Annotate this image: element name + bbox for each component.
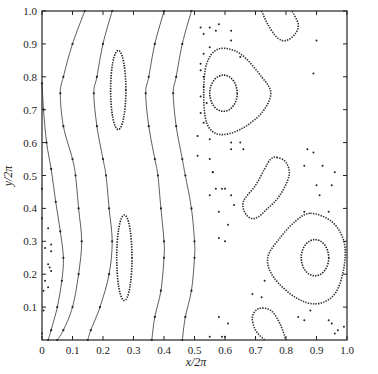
- scatter-point: [261, 296, 263, 298]
- scatter-point: [215, 188, 217, 190]
- trajectory-marker: [148, 125, 150, 127]
- scatter-point: [200, 69, 202, 71]
- y-tick-label: 0.6: [23, 137, 37, 149]
- y-tick-label: 0.3: [23, 235, 37, 247]
- scatter-point: [203, 53, 205, 55]
- trajectory-marker: [74, 174, 76, 176]
- x-tick-label: 0.7: [249, 344, 263, 356]
- trajectory-marker: [78, 273, 80, 275]
- trajectory-marker: [62, 125, 64, 127]
- scatter-point: [44, 280, 46, 282]
- scatter-point: [209, 336, 211, 338]
- scatter-point: [239, 142, 241, 144]
- x-axis-ticks: 00.10.20.30.40.50.60.70.80.91.0: [39, 11, 354, 356]
- scatter-point: [224, 188, 226, 190]
- trajectory-marker: [96, 125, 98, 127]
- scatter-point: [203, 86, 205, 88]
- trajectory-marker: [175, 76, 177, 78]
- trajectory-curves: [41, 10, 345, 341]
- scatter-point: [50, 250, 52, 252]
- scatter-point: [49, 267, 51, 269]
- trajectory-marker: [96, 76, 98, 78]
- trajectory-marker: [193, 257, 195, 259]
- arc-bottom-right: [252, 308, 286, 340]
- scatter-point: [47, 263, 49, 265]
- scatter-point: [334, 332, 336, 334]
- scatter-point: [197, 135, 199, 137]
- trajectory-marker: [50, 329, 52, 331]
- y-axis-label: y/2π: [1, 165, 15, 188]
- scatter-point: [309, 309, 311, 311]
- scatter-point: [230, 40, 232, 42]
- scatter-point: [312, 73, 314, 75]
- trajectory-marker: [62, 329, 64, 331]
- scatter-point: [200, 26, 202, 28]
- scatter-point: [331, 323, 333, 325]
- arc-top-right: [262, 11, 299, 41]
- y-tick-label: 0.8: [23, 71, 37, 83]
- trajectory-marker: [145, 92, 147, 94]
- trajectory-marker: [71, 306, 73, 308]
- trajectory-marker: [154, 316, 156, 318]
- scatter-point: [209, 158, 211, 160]
- trajectory-marker: [56, 306, 58, 308]
- y-tick-label: 0.1: [23, 301, 37, 313]
- trajectory-marker: [184, 316, 186, 318]
- trajectory-marker: [81, 240, 83, 242]
- y-tick-label: 0.5: [23, 170, 37, 182]
- poincare-plot: 00.10.20.30.40.50.60.70.80.91.0 0.10.20.…: [0, 0, 378, 374]
- scatter-point: [218, 23, 220, 25]
- scatter-point: [218, 237, 220, 239]
- x-tick-label: 0.3: [127, 344, 141, 356]
- trajectory-marker: [160, 207, 162, 209]
- scatter-point: [209, 46, 211, 48]
- wavy-line-2: [88, 11, 112, 340]
- scatter-point: [303, 211, 305, 213]
- trajectory-marker: [181, 158, 183, 160]
- trajectory-marker: [78, 207, 80, 209]
- trajectory-marker: [71, 43, 73, 45]
- trajectory-marker: [108, 207, 110, 209]
- scattered-points: [41, 23, 345, 338]
- y-tick-label: 0.7: [23, 104, 37, 116]
- x-tick-label: 0.8: [279, 344, 293, 356]
- scatter-point: [337, 329, 339, 331]
- scatter-point: [43, 309, 45, 311]
- x-tick-label: 0: [39, 344, 45, 356]
- trajectory-marker: [193, 240, 195, 242]
- x-tick-label: 0.1: [66, 344, 80, 356]
- x-tick-label: 0.9: [310, 344, 324, 356]
- trajectory-marker: [190, 290, 192, 292]
- scatter-point: [200, 63, 202, 65]
- scatter-point: [264, 280, 266, 282]
- trajectory-marker: [154, 43, 156, 45]
- x-tick-label: 1.0: [340, 344, 354, 356]
- scatter-point: [43, 290, 45, 292]
- scatter-point: [224, 240, 226, 242]
- island-lower-left: [117, 215, 132, 301]
- x-tick-label: 0.6: [218, 344, 232, 356]
- scatter-point: [303, 319, 305, 321]
- scatter-point: [303, 165, 305, 167]
- scatter-point: [297, 316, 299, 318]
- scatter-point: [206, 102, 208, 104]
- scatter-point: [334, 171, 336, 173]
- scatter-point: [239, 56, 241, 58]
- scatter-point: [322, 165, 324, 167]
- scatter-point: [47, 286, 49, 288]
- scatter-point: [44, 247, 46, 249]
- scatter-point: [50, 244, 52, 246]
- scatter-point: [221, 336, 223, 338]
- scatter-point: [251, 293, 253, 295]
- trajectory-marker: [71, 158, 73, 160]
- scatter-point: [218, 316, 220, 318]
- scatter-point: [230, 30, 232, 32]
- scatter-point: [209, 138, 211, 140]
- trajectory-marker: [90, 329, 92, 331]
- scatter-point: [200, 112, 202, 114]
- scatter-point: [215, 30, 217, 32]
- trajectory-marker: [108, 273, 110, 275]
- x-axis-label: x/2π: [185, 355, 208, 369]
- trajectory-marker: [184, 174, 186, 176]
- scatter-point: [331, 184, 333, 186]
